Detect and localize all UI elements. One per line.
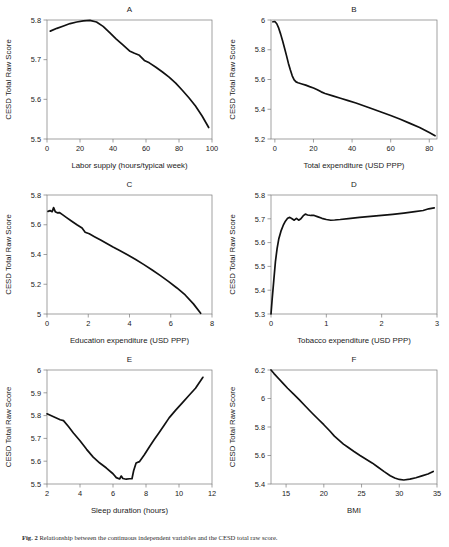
caption-text: Relationship between the continuous inde…: [39, 534, 277, 541]
data-curve: [48, 208, 201, 314]
panel-letter: A: [127, 5, 133, 14]
y-tick-label: 5.8: [31, 191, 41, 200]
y-tick-label: 5.9: [31, 389, 41, 398]
y-tick-label: 6: [261, 16, 265, 25]
y-tick-label: 6.2: [255, 366, 265, 375]
panel-letter: C: [127, 180, 133, 189]
x-tick-label: 60: [387, 144, 395, 153]
x-tick-label: 2: [380, 319, 384, 328]
y-tick-label: 6: [261, 394, 265, 403]
x-tick-label: 80: [175, 144, 183, 153]
y-tick-label: 5.2: [31, 280, 41, 289]
y-tick-label: 5.8: [31, 16, 41, 25]
data-curve: [47, 377, 203, 479]
x-tick-label: 2: [86, 319, 90, 328]
y-axis-label: CESD Total Raw Score: [4, 214, 13, 294]
data-curve: [271, 370, 433, 480]
y-tick-label: 5.2: [255, 135, 265, 144]
y-tick-label: 5.6: [255, 75, 265, 84]
x-tick-label: 40: [109, 144, 117, 153]
plot-e: E246810125.55.65.75.85.96Sleep duration …: [0, 350, 224, 520]
y-tick-label: 5.6: [255, 451, 265, 460]
x-tick-label: 20: [320, 489, 328, 498]
y-tick-label: 5.8: [255, 45, 265, 54]
y-axis-label: CESD Total Raw Score: [228, 39, 237, 119]
x-tick-label: 20: [309, 144, 317, 153]
x-tick-label: 30: [395, 489, 403, 498]
panel-a: A0204060801005.55.65.75.8Labor supply (h…: [0, 0, 224, 175]
x-tick-label: 8: [210, 319, 214, 328]
plot-d: D01235.35.45.55.65.75.8Tobacco expenditu…: [224, 175, 449, 350]
figure-container: A0204060801005.55.65.75.8Labor supply (h…: [0, 0, 449, 547]
x-tick-label: 4: [127, 319, 131, 328]
y-tick-label: 5.8: [255, 423, 265, 432]
x-tick-label: 6: [111, 489, 115, 498]
plot-frame: [271, 20, 437, 139]
y-axis-label: CESD Total Raw Score: [228, 214, 237, 294]
x-tick-label: 8: [144, 489, 148, 498]
x-tick-label: 60: [142, 144, 150, 153]
panel-f: F15202530355.45.65.866.2BMICESD Total Ra…: [224, 350, 449, 520]
y-tick-label: 5.6: [31, 457, 41, 466]
figure-caption: Fig. 2 Relationship between the continuo…: [22, 533, 432, 542]
y-tick-label: 5.5: [31, 135, 41, 144]
y-tick-label: 5.7: [31, 55, 41, 64]
y-tick-label: 5.6: [31, 95, 41, 104]
x-axis-label: Sleep duration (hours): [91, 506, 169, 515]
x-tick-label: 1: [324, 319, 328, 328]
y-tick-label: 5: [37, 310, 41, 319]
plot-frame: [47, 20, 212, 139]
caption-label: Fig. 2: [22, 534, 38, 541]
y-axis-label: CESD Total Raw Score: [4, 387, 13, 467]
x-axis-label: Tobacco expenditure (USD PPP): [297, 336, 411, 345]
x-axis-label: BMI: [347, 506, 361, 515]
plot-frame: [271, 370, 437, 484]
x-tick-label: 20: [76, 144, 84, 153]
x-tick-label: 0: [45, 319, 49, 328]
x-tick-label: 2: [45, 489, 49, 498]
y-axis-label: CESD Total Raw Score: [4, 39, 13, 119]
y-tick-label: 5.8: [255, 191, 265, 200]
panel-letter: E: [127, 355, 132, 364]
x-tick-label: 15: [282, 489, 290, 498]
plot-f: F15202530355.45.65.866.2BMICESD Total Ra…: [224, 350, 449, 520]
y-tick-label: 5.5: [31, 480, 41, 489]
panel-letter: D: [351, 180, 357, 189]
plot-b: B0204060805.25.45.65.86Total expenditure…: [224, 0, 449, 175]
plot-c: C0246855.25.45.65.8Education expenditure…: [0, 175, 224, 350]
y-tick-label: 5.3: [255, 310, 265, 319]
panel-letter: B: [351, 5, 356, 14]
x-tick-label: 0: [45, 144, 49, 153]
panel-b: B0204060805.25.45.65.86Total expenditure…: [224, 0, 449, 175]
panel-d: D01235.35.45.55.65.75.8Tobacco expenditu…: [224, 175, 449, 350]
x-tick-label: 12: [208, 489, 216, 498]
data-curve: [273, 21, 435, 135]
y-tick-label: 5.7: [255, 215, 265, 224]
x-tick-label: 0: [273, 144, 277, 153]
x-tick-label: 80: [425, 144, 433, 153]
y-tick-label: 5.4: [255, 480, 265, 489]
y-tick-label: 5.5: [255, 262, 265, 271]
y-tick-label: 5.4: [255, 105, 265, 114]
x-tick-label: 10: [175, 489, 183, 498]
panel-letter: F: [352, 355, 357, 364]
x-tick-label: 3: [435, 319, 439, 328]
x-axis-label: Education expenditure (USD PPP): [70, 336, 190, 345]
x-tick-label: 0: [269, 319, 273, 328]
x-tick-label: 100: [206, 144, 218, 153]
y-tick-label: 5.6: [255, 238, 265, 247]
x-axis-label: Total expenditure (USD PPP): [304, 161, 405, 170]
y-axis-label: CESD Total Raw Score: [228, 387, 237, 467]
plot-a: A0204060801005.55.65.75.8Labor supply (h…: [0, 0, 224, 175]
x-tick-label: 25: [357, 489, 365, 498]
panel-grid: A0204060801005.55.65.75.8Labor supply (h…: [0, 0, 449, 520]
data-curve: [271, 208, 434, 314]
x-tick-label: 35: [433, 489, 441, 498]
x-axis-label: Labor supply (hours/typical week): [71, 161, 188, 170]
data-curve: [50, 20, 208, 127]
y-tick-label: 5.6: [31, 220, 41, 229]
panel-c: C0246855.25.45.65.8Education expenditure…: [0, 175, 224, 350]
x-tick-label: 40: [348, 144, 356, 153]
y-tick-label: 5.7: [31, 434, 41, 443]
y-tick-label: 5.4: [255, 286, 265, 295]
